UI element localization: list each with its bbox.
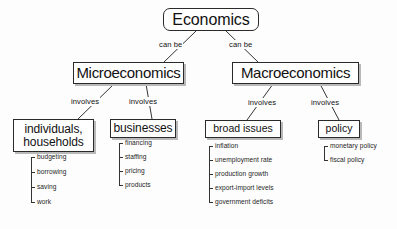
leaf-item[interactable]: inflation [215,142,238,149]
node-macroeconomics[interactable]: Macroeconomics [232,62,359,84]
leaf-tick [31,172,35,173]
node-individuals-line1: individuals, [24,123,82,136]
leaf-tick [209,174,213,175]
leaf-item[interactable]: products [125,181,151,188]
leaf-item[interactable]: fiscal policy [330,156,364,163]
leaf-item[interactable]: financing [125,139,152,146]
leaf-item[interactable]: pricing [125,167,145,174]
node-individuals-households[interactable]: individuals, households [13,119,94,152]
concept-map-canvas: Economics Microeconomics Macroeconomics … [0,0,397,229]
connector-lines [0,0,397,229]
node-businesses[interactable]: businesses [110,119,176,138]
leaf-tick [119,171,123,172]
leaf-item[interactable]: saving [37,183,56,190]
leaf-tick [209,188,213,189]
edge-label-can-be-left: can be [158,40,183,49]
leaf-tick [31,187,35,188]
node-economics[interactable]: Economics [163,8,259,31]
node-economics-label: Economics [172,11,249,28]
leaf-tick [119,185,123,186]
leaf-tick [209,146,213,147]
leaf-tick [209,160,213,161]
leaf-item[interactable]: work [37,198,51,205]
node-policy-label: policy [326,123,353,134]
leaf-item[interactable]: export-import levels [215,184,274,191]
leaf-item[interactable]: budgeting [37,153,66,160]
leaf-tick [324,160,328,161]
leaf-item[interactable]: government deficits [215,198,273,205]
leaf-tick [209,202,213,203]
edge-label-involves-4: involves [310,98,340,107]
edge-label-involves-1: involves [70,97,100,106]
node-macroeconomics-label: Macroeconomics [241,65,350,81]
leaf-tick [31,157,35,158]
node-businesses-label: businesses [113,122,172,135]
node-microeconomics-label: Microeconomics [76,65,180,81]
leaf-item[interactable]: unemployment rate [215,156,272,163]
leaf-bracket [31,157,32,202]
leaf-item[interactable]: monetary policy [330,142,377,149]
leaf-tick [119,157,123,158]
leaf-tick [31,202,35,203]
node-broad-issues[interactable]: broad issues [205,120,281,138]
leaf-item[interactable]: staffing [125,153,147,160]
leaf-item[interactable]: borrowing [37,168,66,175]
edge-label-can-be-right: can be [228,40,253,49]
node-microeconomics[interactable]: Microeconomics [73,62,184,84]
leaf-tick [119,143,123,144]
node-broad-issues-label: broad issues [213,123,273,134]
edge-label-involves-3: involves [247,98,277,107]
leaf-bracket [324,146,325,160]
leaf-bracket [119,143,120,185]
node-individuals-line2: households [23,136,83,149]
leaf-tick [324,146,328,147]
leaf-item[interactable]: production growth [215,170,268,177]
node-policy[interactable]: policy [318,120,360,138]
edge-label-involves-2: involves [128,97,158,106]
